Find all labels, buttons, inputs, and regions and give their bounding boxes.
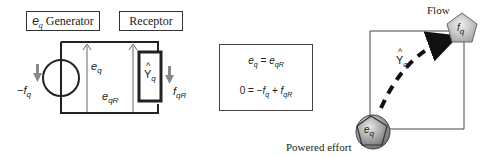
neg-flow-label: −fq — [17, 84, 31, 99]
eq2-op: = − — [245, 85, 262, 96]
flow-label: Flow — [427, 4, 450, 16]
effort-label: eq — [91, 60, 102, 75]
admittance-label: ^ Yq — [144, 62, 156, 83]
effort-node-label: eq — [364, 124, 374, 138]
effort-sub: q — [97, 66, 101, 75]
flow-receptor-label: fqR — [173, 85, 186, 100]
effort-receptor-sub: qR — [108, 96, 118, 105]
powered-effort-label: Powered effort — [286, 141, 351, 153]
neg-flow-arrow-icon — [33, 64, 42, 82]
eq1-op: = — [258, 55, 269, 66]
eq2-t2-sub: qR — [283, 91, 292, 98]
eq1-rhs-sub: qR — [275, 61, 284, 68]
effort-node-sub: q — [370, 129, 374, 138]
admittance-edge-arrow — [381, 41, 444, 108]
equation-1: eq = eqR — [220, 55, 312, 68]
equation-2: 0 = −fq + fqR — [220, 85, 312, 98]
effort-receptor-label: eqR — [102, 90, 118, 105]
flow-node-sub: q — [460, 27, 464, 36]
flow-node-label: fq — [457, 22, 464, 36]
edge-sub: q — [403, 60, 407, 69]
equations-box: eq = eqR 0 = −fq + fqR — [219, 44, 313, 111]
eq2-plus: + — [269, 85, 280, 96]
flow-receptor-sub: qR — [176, 91, 186, 100]
admittance-sub: q — [151, 74, 155, 83]
neg-flow-sub: q — [26, 90, 30, 99]
edge-admittance-label: ^ Yq — [396, 48, 408, 69]
flow-receptor-arrow-icon — [165, 66, 174, 84]
